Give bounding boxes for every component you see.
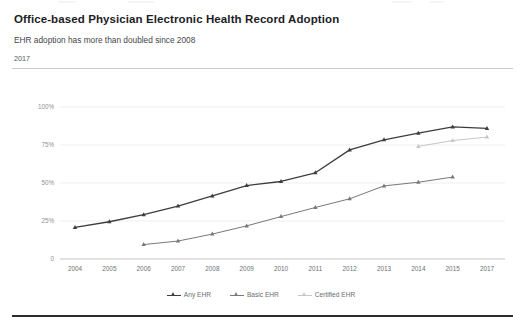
x-tick-label: 2015 — [446, 265, 461, 272]
line-chart-svg: 025%50%75%100% 2004200520062007200820092… — [0, 0, 522, 324]
legend-item-any-ehr[interactable]: Any EHR — [167, 291, 211, 299]
x-tick-label: 2008 — [205, 265, 220, 272]
legend-item-basic-ehr[interactable]: Basic EHR — [230, 291, 279, 299]
x-tick-label: 2013 — [377, 265, 392, 272]
x-tick-label: 2011 — [308, 265, 322, 272]
plot-area: 025%50%75%100% 2004200520062007200820092… — [0, 0, 522, 324]
y-tick-label: 100% — [38, 103, 55, 110]
chart-page: Office-based Physician Electronic Health… — [0, 0, 522, 324]
legend-label: Certified EHR — [315, 291, 355, 299]
bottom-border — [12, 315, 513, 317]
legend-label: Any EHR — [184, 291, 211, 299]
y-axis-tick-labels: 025%50%75%100% — [38, 103, 55, 262]
legend-marker-icon — [167, 291, 181, 299]
gridlines — [60, 107, 505, 221]
series-certified-ehr — [416, 135, 489, 148]
y-tick-label: 50% — [41, 179, 54, 186]
x-tick-label: 2009 — [240, 265, 255, 272]
x-tick-label: 2010 — [274, 265, 289, 272]
x-tick-label: 2007 — [171, 265, 186, 272]
x-tick-label: 2004 — [68, 265, 83, 272]
legend-label: Basic EHR — [247, 291, 279, 299]
data-point-marker — [485, 135, 489, 139]
y-tick-label: 0 — [50, 255, 54, 262]
data-point-marker — [450, 175, 454, 179]
legend-marker-icon — [298, 291, 312, 299]
legend-item-certified-ehr[interactable]: Certified EHR — [298, 291, 355, 299]
x-tick-label: 2005 — [102, 265, 117, 272]
chart-legend: Any EHRBasic EHRCertified EHR — [0, 291, 522, 299]
x-tick-label: 2014 — [411, 265, 426, 272]
x-tick-label: 2012 — [343, 265, 358, 272]
y-tick-label: 25% — [41, 217, 54, 224]
series-basic-ehr — [141, 175, 454, 246]
x-axis-tick-labels: 2004200520062007200820092010201120122013… — [68, 265, 495, 272]
legend-marker-icon — [230, 291, 244, 299]
x-tick-label: 2017 — [480, 265, 495, 272]
data-series-layer — [73, 124, 489, 246]
y-tick-label: 75% — [41, 141, 54, 148]
x-tick-label: 2006 — [137, 265, 152, 272]
series-any-ehr — [73, 124, 489, 228]
